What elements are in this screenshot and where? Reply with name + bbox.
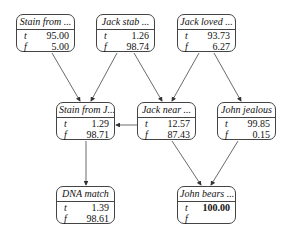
f-value: 0.15 <box>253 129 271 140</box>
node-title: Stain from ... <box>17 15 74 30</box>
f-value: 87.43 <box>168 129 191 140</box>
edge-jack-stab-to-jack-near <box>134 53 162 101</box>
node-title: Jack loved ... <box>178 15 235 30</box>
f-label: f <box>185 41 188 52</box>
t-label: t <box>64 118 67 129</box>
t-label: t <box>185 202 188 213</box>
node-title: John jealous <box>218 103 275 118</box>
t-value: 1.29 <box>92 118 110 129</box>
f-value: 5.00 <box>52 41 70 52</box>
f-value: 6.27 <box>213 41 231 52</box>
f-value: 98.71 <box>87 129 110 140</box>
f-value: 98.61 <box>87 213 110 224</box>
f-label: f <box>24 41 27 52</box>
t-label: t <box>185 30 188 41</box>
t-label: t <box>225 118 228 129</box>
edge-john-jealous-to-john-bears <box>211 141 238 185</box>
f-label: f <box>64 129 67 140</box>
t-value: 99.85 <box>248 118 271 129</box>
edge-jack-loved-to-jack-near <box>172 53 199 101</box>
f-label: f <box>64 213 67 224</box>
node-stain-from[interactable]: Stain from ... t95.00 f5.00 <box>16 14 75 52</box>
f-label: f <box>145 129 148 140</box>
f-value: 98.74 <box>127 41 150 52</box>
t-label: t <box>64 202 67 213</box>
t-label: t <box>104 30 107 41</box>
node-jack-near[interactable]: Jack near ... t12.57 f87.43 <box>137 102 196 140</box>
t-value: 1.39 <box>92 202 110 213</box>
t-value: 93.73 <box>208 30 231 41</box>
edge-jack-loved-to-john-jealous <box>214 53 241 101</box>
f-label: f <box>185 213 188 224</box>
t-label: t <box>24 30 27 41</box>
edge-jack-stab-to-stain-from-j <box>91 53 117 101</box>
node-john-bears[interactable]: John bears ... t100.00 f <box>177 186 236 224</box>
node-title: DNA match <box>57 187 114 202</box>
t-value: 12.57 <box>168 118 191 129</box>
node-john-jealous[interactable]: John jealous t99.85 f0.15 <box>217 102 276 140</box>
node-jack-stab[interactable]: Jack stab ... t1.26 f98.74 <box>96 14 155 52</box>
node-jack-loved[interactable]: Jack loved ... t93.73 f6.27 <box>177 14 236 52</box>
node-stain-from-j[interactable]: Stain from J... t1.29 f98.71 <box>56 102 115 140</box>
node-title: John bears ... <box>178 187 235 202</box>
edge-stain-from-to-stain-from-j <box>52 53 80 101</box>
f-label: f <box>104 41 107 52</box>
node-dna-match[interactable]: DNA match t1.39 f98.61 <box>56 186 115 224</box>
edge-jack-near-to-john-bears <box>172 141 201 185</box>
t-label: t <box>145 118 148 129</box>
node-title: Jack stab ... <box>97 15 154 30</box>
f-label: f <box>225 129 228 140</box>
t-value: 100.00 <box>203 202 231 213</box>
node-title: Jack near ... <box>138 103 195 118</box>
node-title: Stain from J... <box>57 103 114 118</box>
t-value: 1.26 <box>132 30 150 41</box>
t-value: 95.00 <box>47 30 70 41</box>
